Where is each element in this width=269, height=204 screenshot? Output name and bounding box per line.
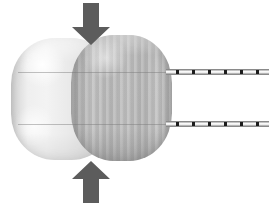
balloon-right [71, 35, 172, 161]
arrow-down-icon [71, 3, 111, 45]
seam-line-upper [18, 72, 170, 73]
arrow-up-icon [71, 161, 111, 203]
catheter-rod-lower [166, 121, 269, 127]
rod-tick [256, 122, 259, 126]
seam-line-lower [18, 124, 170, 125]
rod-tick [240, 70, 243, 74]
rod-tick [176, 122, 179, 126]
rod-tick [224, 70, 227, 74]
rod-tick [256, 70, 259, 74]
rod-tick [240, 122, 243, 126]
rod-tick [176, 70, 179, 74]
diagram-canvas [0, 0, 269, 204]
rod-tick [192, 70, 195, 74]
rod-tick [224, 122, 227, 126]
catheter-rod-upper [166, 69, 269, 75]
rod-tick [192, 122, 195, 126]
rod-tick [208, 122, 211, 126]
rod-tick [208, 70, 211, 74]
